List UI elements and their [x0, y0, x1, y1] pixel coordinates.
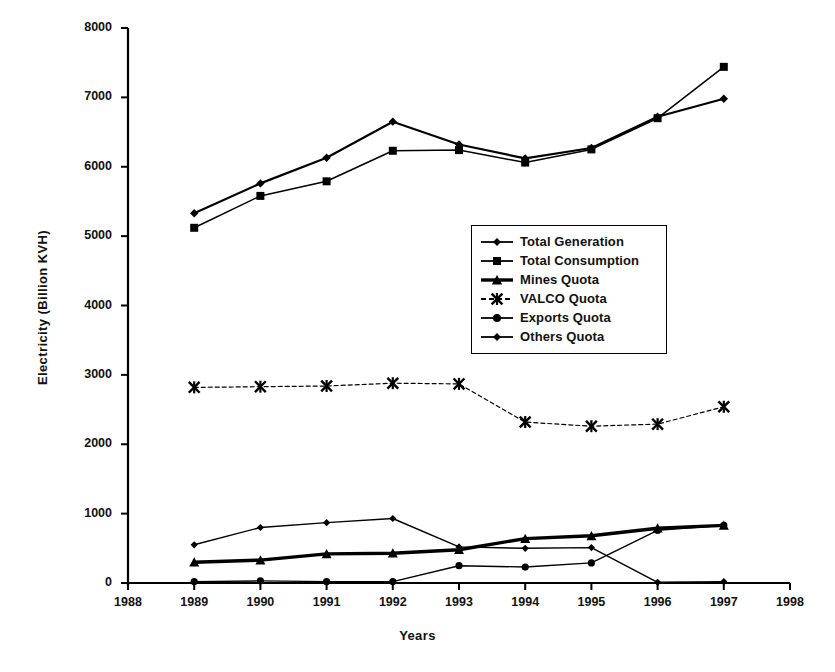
square-marker-icon — [479, 252, 515, 270]
y-tick-label: 6000 — [52, 159, 112, 173]
legend-item-others-quota[interactable]: Others Quota — [479, 327, 659, 346]
legend-label: Others Quota — [520, 329, 604, 344]
legend-label: Mines Quota — [520, 272, 599, 287]
y-tick-label: 8000 — [52, 20, 112, 34]
legend-label: Exports Quota — [520, 310, 611, 325]
y-tick-label: 4000 — [52, 298, 112, 312]
y-tick-label: 0 — [52, 575, 112, 589]
diamond-marker-icon — [479, 233, 515, 251]
legend-item-total-consumption[interactable]: Total Consumption — [479, 251, 659, 270]
y-tick-label: 5000 — [52, 228, 112, 242]
legend-label: Total Consumption — [520, 253, 639, 268]
line-chart: Electricity (Billion KVH) Years 01000200… — [0, 0, 835, 672]
y-axis-title: Electricity (Billion KVH) — [35, 158, 50, 458]
series-total-consumption — [190, 63, 728, 232]
star-marker-icon — [479, 290, 515, 308]
series-others-quota — [191, 515, 728, 586]
legend-label: Total Generation — [520, 234, 624, 249]
circle-marker-icon — [479, 309, 515, 327]
x-tick-label: 1990 — [228, 595, 292, 609]
x-tick-label: 1991 — [295, 595, 359, 609]
x-tick-label: 1988 — [96, 595, 160, 609]
x-axis-title: Years — [0, 628, 835, 643]
legend-label: VALCO Quota — [520, 291, 607, 306]
plot-area — [0, 0, 835, 672]
legend-item-valco-quota[interactable]: VALCO Quota — [479, 289, 659, 308]
series-total-generation — [190, 95, 728, 218]
y-tick-label: 2000 — [52, 436, 112, 450]
x-tick-label: 1998 — [758, 595, 822, 609]
x-tick-label: 1992 — [361, 595, 425, 609]
x-tick-label: 1993 — [427, 595, 491, 609]
y-tick-label: 7000 — [52, 89, 112, 103]
x-tick-label: 1996 — [626, 595, 690, 609]
axes — [128, 28, 790, 586]
chart-legend: Total GenerationTotal ConsumptionMines Q… — [471, 225, 667, 354]
legend-item-mines-quota[interactable]: Mines Quota — [479, 270, 659, 289]
triangle-marker-icon — [479, 271, 515, 289]
x-tick-label: 1989 — [162, 595, 226, 609]
y-tick-label: 1000 — [52, 506, 112, 520]
diamond-marker-icon — [479, 328, 515, 346]
x-tick-label: 1994 — [493, 595, 557, 609]
x-tick-label: 1995 — [559, 595, 623, 609]
legend-item-exports-quota[interactable]: Exports Quota — [479, 308, 659, 327]
legend-item-total-generation[interactable]: Total Generation — [479, 232, 659, 251]
x-tick-label: 1997 — [692, 595, 756, 609]
y-tick-label: 3000 — [52, 367, 112, 381]
series-valco-quota — [189, 377, 729, 432]
